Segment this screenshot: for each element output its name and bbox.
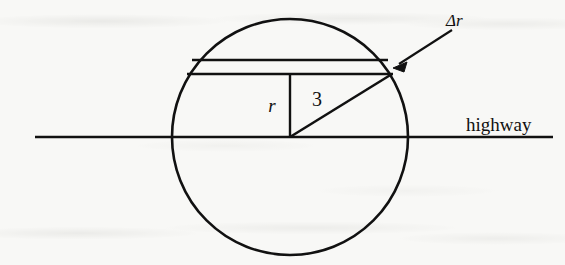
radius-label: r [268,95,276,116]
delta-r-arrow [393,30,452,72]
chord-distance-label: 3 [312,88,322,110]
highway-label: highway [466,114,532,135]
geometry-figure: r 3 Δr highway [0,0,565,265]
figure-root: r 3 Δr highway [0,0,565,265]
hypotenuse-segment [290,74,392,137]
strip-width-label: Δr [445,11,463,30]
